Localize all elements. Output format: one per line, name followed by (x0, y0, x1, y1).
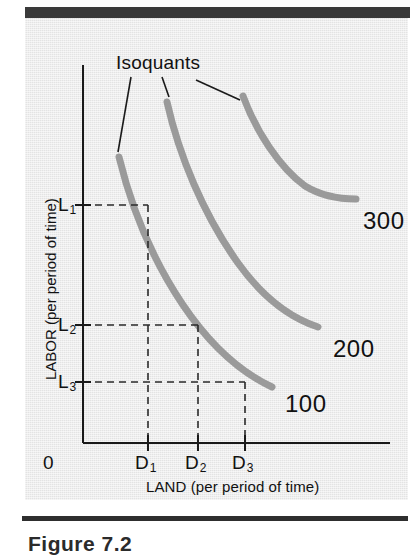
origin-label: 0 (43, 452, 54, 474)
y-tick-label-L1-sub: 1 (70, 203, 77, 217)
y-tick-label-L1-base: L (58, 194, 69, 215)
y-tick-label-L2-sub: 2 (70, 323, 77, 337)
leader-line-to-curve-200 (162, 77, 169, 97)
isoquant-curve-300 (243, 96, 356, 199)
x-tick-label-D2-sub: 2 (200, 461, 207, 475)
leader-line-to-curve-300 (196, 80, 240, 100)
x-tick-label-D3-base: D (232, 452, 246, 473)
x-tick-label-D2-base: D (185, 452, 199, 473)
x-tick-label-D3-sub: 3 (247, 461, 254, 475)
y-tick-label-L3-base: L (58, 371, 69, 392)
x-axis-title: LAND (per period of time) (146, 478, 319, 495)
y-tick-label-L1: L1 (58, 194, 75, 216)
x-tick-label-D3: D3 (232, 452, 252, 474)
y-tick-label-L3-sub: 3 (70, 380, 77, 394)
axis-tick-marks (75, 205, 245, 451)
leader-line-to-curve-100 (118, 77, 131, 152)
y-axis-title: LABOR (per period of time) (42, 198, 59, 380)
x-tick-label-D1: D1 (135, 452, 155, 474)
y-tick-label-L2-base: L (58, 314, 69, 335)
isoquant-curve-200 (167, 102, 318, 327)
curve-label-300: 300 (363, 207, 405, 235)
curve-label-100: 100 (285, 390, 327, 418)
x-tick-label-D1-base: D (135, 452, 149, 473)
x-tick-label-D2: D2 (185, 452, 205, 474)
y-tick-label-L2: L2 (58, 314, 75, 336)
y-tick-label-L3: L3 (58, 371, 75, 393)
bottom-rule-divider (22, 516, 408, 521)
isoquant-curves (119, 96, 356, 387)
isoquants-annotation-label: Isoquants (116, 52, 200, 74)
isoquant-plot (0, 0, 420, 555)
figure-container: Isoquants 300 200 100 L1 L2 L3 D1 D2 D3 … (0, 0, 420, 555)
figure-caption: Figure 7.2 (28, 532, 132, 555)
axis-lines (83, 65, 390, 443)
curve-label-200: 200 (333, 335, 375, 363)
x-tick-label-D1-sub: 1 (150, 461, 157, 475)
